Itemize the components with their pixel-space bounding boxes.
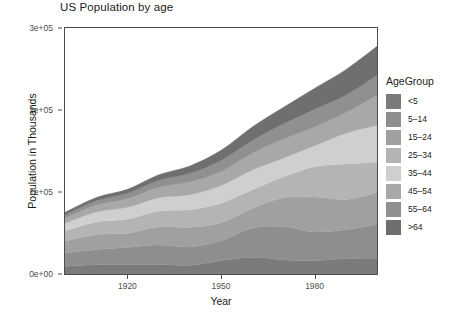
x-axis: Year 192019501980 [64,275,378,315]
legend-item[interactable]: 55–64 [386,201,464,218]
chart-container: US Population by age Population in Thous… [0,0,464,318]
x-tick-label: 1950 [212,281,231,291]
legend-item[interactable]: 25–34 [386,147,464,164]
legend-item[interactable]: <5 [386,93,464,110]
legend-item-label: 35–44 [408,169,432,178]
y-axis-title: Population in Thousands [26,56,38,246]
legend-item-label: 25–34 [408,151,432,160]
y-tick-label: 3e+05 [29,23,53,33]
legend: AgeGroup <55–1415–2425–3435–4445–5455–64… [386,75,464,237]
legend-item-label: 45–54 [408,187,432,196]
legend-item[interactable]: 15–24 [386,129,464,146]
legend-color-swatch [386,112,401,127]
x-tick-mark [221,275,222,279]
stacked-area-plot [65,28,377,274]
chart-title: US Population by age [60,1,173,13]
y-axis: Population in Thousands 0e+001e+052e+053… [0,27,64,275]
legend-color-swatch [386,148,401,163]
legend-color-swatch [386,220,401,235]
y-tick-mark [58,274,62,275]
legend-item-label: 5–14 [408,115,427,124]
y-tick-label: 2e+05 [29,105,53,115]
y-tick-label: 1e+05 [29,187,53,197]
plot-panel [64,27,378,275]
y-tick-label: 0e+00 [29,269,53,279]
legend-item-list: <55–1415–2425–3435–4445–5455–64>64 [386,93,464,236]
legend-item-label: 15–24 [408,133,432,142]
legend-item-label: >64 [408,223,422,232]
x-axis-title: Year [64,295,378,307]
x-tick-mark [315,275,316,279]
legend-item[interactable]: 5–14 [386,111,464,128]
legend-color-swatch [386,166,401,181]
y-tick-mark [58,192,62,193]
legend-item[interactable]: >64 [386,219,464,236]
legend-item[interactable]: 35–44 [386,165,464,182]
legend-title: AgeGroup [386,75,464,87]
y-tick-mark [58,110,62,111]
legend-color-swatch [386,94,401,109]
y-tick-mark [58,28,62,29]
x-tick-label: 1920 [118,281,137,291]
x-tick-label: 1980 [305,281,324,291]
x-tick-mark [127,275,128,279]
legend-color-swatch [386,202,401,217]
legend-color-swatch [386,130,401,145]
plot-area [65,28,377,274]
legend-item[interactable]: 45–54 [386,183,464,200]
legend-color-swatch [386,184,401,199]
legend-item-label: <5 [408,97,418,106]
legend-item-label: 55–64 [408,205,432,214]
